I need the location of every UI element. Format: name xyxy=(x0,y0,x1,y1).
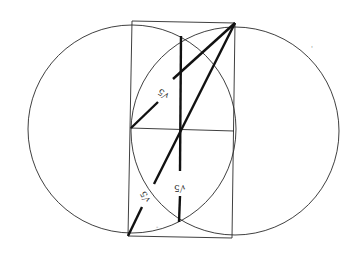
vertical-segment-label: √5 xyxy=(174,183,185,192)
small-tick-right: ' xyxy=(311,46,313,53)
upper-diagonal-segment-b xyxy=(131,102,158,128)
vertical-center-line-lower xyxy=(179,196,180,222)
right-large-circle xyxy=(131,27,339,235)
small-tick-bottom: - xyxy=(156,224,158,231)
long-diagonal-segment-a xyxy=(154,23,235,184)
left-large-circle xyxy=(28,25,236,233)
golden-ratio-diagram xyxy=(0,0,354,254)
vertical-center-line-upper xyxy=(180,36,181,171)
long-diagonal-segment-b xyxy=(128,207,142,236)
